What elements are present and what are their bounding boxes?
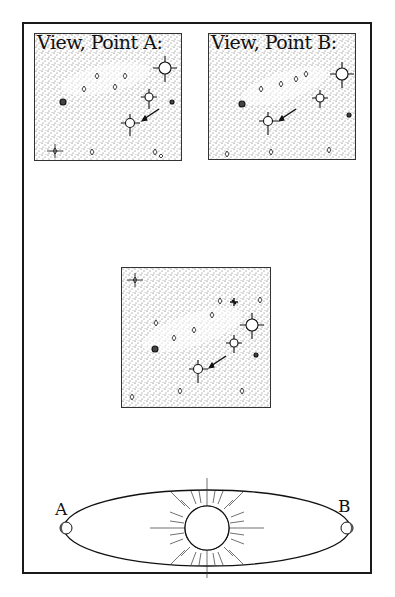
point-b-label: B — [338, 496, 351, 516]
panel-b-title: View, Point B: — [211, 33, 337, 53]
orbit-diagram: A B — [0, 0, 395, 597]
sun-icon — [150, 478, 264, 578]
panel-a-title: View, Point A: — [37, 33, 162, 53]
earth-at-b-icon — [341, 522, 353, 534]
point-a-label: A — [54, 499, 68, 519]
earth-at-a-icon — [60, 522, 72, 534]
